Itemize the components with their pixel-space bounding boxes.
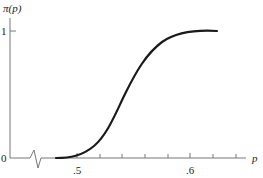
x-axis — [10, 150, 246, 168]
x-tick-label-06: .6 — [186, 164, 195, 176]
chart: π(p) 1 0 .5 .6 p — [0, 0, 263, 178]
x-tick-label-05: .5 — [73, 164, 82, 176]
y-tick-label-0: 0 — [1, 152, 7, 164]
x-ticks — [77, 153, 236, 158]
x-axis-label: p — [251, 152, 258, 164]
pi-curve — [56, 31, 217, 158]
y-axis-label: π(p) — [3, 2, 22, 15]
y-tick-label-1: 1 — [1, 25, 7, 37]
